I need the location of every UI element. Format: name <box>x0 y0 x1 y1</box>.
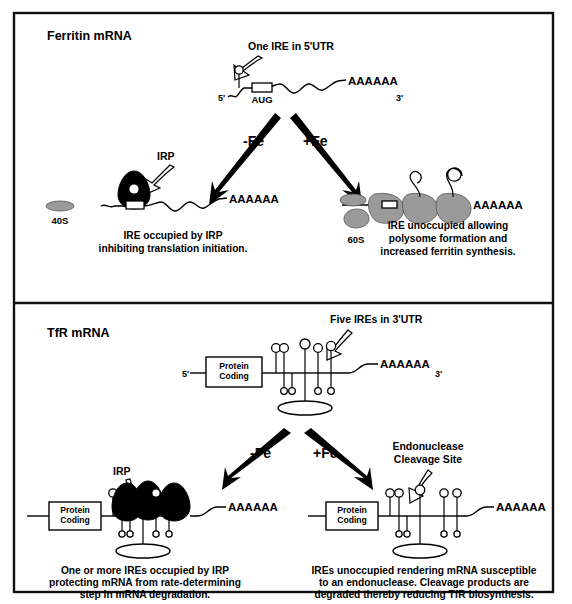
protein-coding-label-minus-1: Protein <box>60 505 90 515</box>
three-prime-label-tfr: 3' <box>435 369 442 379</box>
five-prime-label-tfr: 5' <box>182 369 189 379</box>
ire-minus-6-occupied <box>158 483 190 537</box>
caption-plus-fe-line-1: IRE unoccupied allowing <box>388 220 509 231</box>
label-plus-fe-tfr: +Fe <box>313 445 338 461</box>
nascent-chain-2 <box>447 168 462 197</box>
caption-plus-fe-line-2: polysome formation and <box>389 233 507 244</box>
polysome-ribosome-2 <box>402 193 438 223</box>
caption-tfr-minus-line-2: protecting mRNA from rate-determining <box>49 577 241 588</box>
protein-coding-label-plus-1: Protein <box>337 505 367 515</box>
panel-ferritin: Ferritin mRNA One IRE in 5'UTR AUG AAAAA <box>46 29 523 257</box>
label-plus-fe-ferritin: +Fe <box>303 133 328 149</box>
three-prime-label-ferritin: 3' <box>396 93 403 103</box>
callout-one-ire: One IRE in 5'UTR <box>248 40 334 52</box>
ferritin-mrna-backbone <box>228 80 346 97</box>
poly-a-tail-minus-fe: AAAAAA <box>229 193 279 205</box>
branch-arrow-minus-fe-ferritin <box>209 113 281 205</box>
label-irp-tfr: IRP <box>113 465 131 477</box>
caption-minus-fe-line-1: IRE occupied by IRP <box>123 230 222 241</box>
ire-plus-6 <box>453 489 461 537</box>
panel-tfr: TfR mRNA Five IREs in 3'UTR 5' Protein C… <box>27 313 546 600</box>
caption-minus-fe-line-2: inhibiting translation initiation. <box>99 243 248 254</box>
panel-title-tfr: TfR mRNA <box>47 326 110 340</box>
poly-a-tail-ferritin: AAAAAA <box>348 75 398 87</box>
poly-a-tail-tfr-minus: AAAAAA <box>228 501 278 513</box>
caption-tfr-plus-line-2: to an endonuclease. Cleavage products ar… <box>319 577 529 588</box>
tfr-mrna-top: 5' Protein Coding <box>182 339 442 415</box>
protein-coding-label-plus-2: Coding <box>337 515 367 525</box>
aug-box <box>252 83 272 92</box>
protein-coding-label-2: Coding <box>219 371 249 381</box>
polysome-ribosome-1 <box>368 193 404 223</box>
caption-plus-fe-line-3: increased ferritin synthesis. <box>380 246 515 257</box>
branch-plus-fe-ferritin: 60S AAAAAA <box>340 168 523 257</box>
branch-minus-fe-ferritin: 40S IRP AAAAAA IRE <box>46 150 279 254</box>
label-60s: 60S <box>348 234 365 245</box>
pathway-diagram: Ferritin mRNA One IRE in 5'UTR AUG AAAAA <box>0 0 572 604</box>
label-minus-fe-tfr: -Fe <box>250 445 271 461</box>
label-irp-ferritin: IRP <box>157 150 175 162</box>
figure-root: Ferritin mRNA One IRE in 5'UTR AUG AAAAA <box>0 0 572 604</box>
ire-2 <box>280 344 292 395</box>
ribosome-60s-icon <box>344 209 369 228</box>
ire-base-oval-minus-fe <box>116 544 170 558</box>
caption-tfr-minus-line-3: step in mRNA degradation. <box>80 589 211 600</box>
ribosome-40s-scanning-icon <box>340 194 366 206</box>
callout-endonuclease-line-2: Cleavage Site <box>394 453 462 465</box>
ribosome-40s-icon <box>46 201 74 211</box>
polysome-ribosome-3 <box>436 193 471 223</box>
caption-tfr-minus-line-1: One or more IREs occupied by IRP <box>61 565 229 576</box>
aug-label: AUG <box>251 94 272 105</box>
ire-base-oval-plus-fe <box>393 544 447 558</box>
caption-tfr-plus-line-1: IREs unoccupied rendering mRNA susceptib… <box>312 565 537 576</box>
irp-callout-arrow-icon <box>146 165 174 194</box>
five-prime-label-ferritin: 5' <box>218 93 225 103</box>
poly-a-tail-plus-fe: AAAAAA <box>473 199 523 211</box>
ire-6 <box>326 341 335 394</box>
protein-coding-label-minus-2: Coding <box>60 515 90 525</box>
ire-base-oval-tfr <box>278 401 332 415</box>
label-40s: 40S <box>52 215 69 226</box>
branch-arrow-plus-fe-ferritin <box>290 113 362 205</box>
aug-box-minus-fe <box>126 201 144 209</box>
caption-tfr-plus-line-3: degraded thereby reducing TfR biosynthes… <box>314 589 533 600</box>
protein-coding-label-1: Protein <box>219 361 249 371</box>
ire-plus-3 <box>404 516 420 537</box>
callout-endonuclease-line-1: Endonuclease <box>392 440 463 452</box>
ire-plus-2 <box>395 489 407 537</box>
poly-a-tail-tfr: AAAAAA <box>380 358 430 370</box>
poly-a-tail-tfr-plus: AAAAAA <box>496 501 546 513</box>
branch-plus-fe-tfr: Endonuclease Cleavage Site Protein Codin… <box>308 440 546 600</box>
callout-five-ires: Five IREs in 3'UTR <box>330 313 423 325</box>
label-minus-fe-ferritin: -Fe <box>243 133 264 149</box>
aug-box-polysome <box>382 201 397 208</box>
panel-title-ferritin: Ferritin mRNA <box>47 29 132 43</box>
branch-minus-fe-tfr: IRP Protein Coding <box>27 465 278 600</box>
ire-3 <box>289 373 305 394</box>
